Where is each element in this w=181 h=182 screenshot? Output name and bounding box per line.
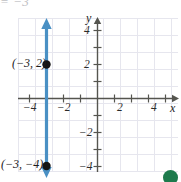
point-label-lower: (−3, −4) <box>1 157 43 172</box>
y-axis-label: y <box>86 11 91 26</box>
coordinate-plane-figure: = −3 <box>0 0 181 182</box>
y-tick-label-neg2: −2 <box>79 126 93 138</box>
x-tick-label-neg4: −4 <box>23 101 37 113</box>
y-axis <box>94 17 101 172</box>
y-tick-label-2: 2 <box>84 58 90 70</box>
x-tick-label-neg2: −2 <box>57 101 71 113</box>
x-tick-label-4: 4 <box>151 101 157 113</box>
axes-and-plot <box>0 0 181 182</box>
y-tick-label-neg4: −4 <box>79 160 93 172</box>
x-tick-label-2: 2 <box>117 101 123 113</box>
plotted-point-lower <box>42 162 50 170</box>
point-label-upper: (−3, 2) <box>12 56 46 71</box>
x-axis-label: x <box>170 101 175 116</box>
green-badge-icon <box>163 170 178 182</box>
